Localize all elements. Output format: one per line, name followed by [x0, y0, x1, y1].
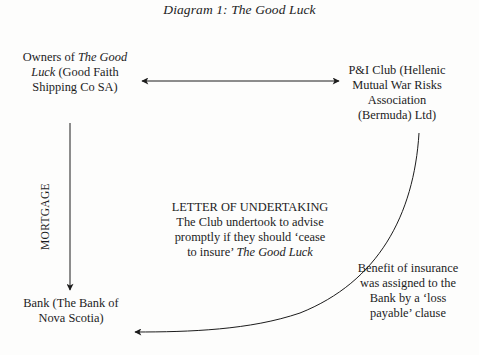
benefit-of-insurance-note: Benefit of insurance was assigned to the…: [343, 261, 473, 321]
letter-line3-prefix: to insure’: [187, 245, 236, 259]
pi-club-line2: Mutual War Risks: [352, 78, 442, 92]
diagram-page: Diagram 1: The Good Luck Owners of The G…: [0, 0, 479, 355]
owners-line3: Shipping Co SA): [32, 80, 117, 94]
pi-club-line4: (Bermuda) Ltd): [358, 108, 436, 122]
pi-club-node: P&I Club (Hellenic Mutual War Risks Asso…: [336, 63, 458, 123]
benefit-line2: was assigned to the: [360, 276, 456, 290]
owners-node: Owners of The Good Luck (Good Faith Ship…: [14, 50, 136, 95]
benefit-line1: Benefit of insurance: [358, 261, 458, 275]
pi-club-line1: P&I Club (Hellenic: [348, 63, 445, 77]
owners-line1-prefix: Owners of: [23, 50, 78, 64]
mortgage-label: MORTGAGE: [39, 183, 51, 250]
letter-heading: LETTER OF UNDERTAKING: [172, 200, 329, 214]
owners-line2-italic: Luck: [31, 65, 55, 79]
bank-line1: Bank (The Bank of: [23, 296, 118, 310]
benefit-line3: Bank by a ‘loss: [370, 291, 447, 305]
letter-line2: promptly if they should ‘cease: [175, 230, 326, 244]
diagram-title: Diagram 1: The Good Luck: [0, 2, 479, 18]
bank-node: Bank (The Bank of Nova Scotia): [15, 296, 127, 326]
pi-club-line3: Association: [368, 93, 427, 107]
bank-line2: Nova Scotia): [38, 311, 103, 325]
owners-line1-italic: The Good: [78, 50, 127, 64]
letter-line3-italic: The Good Luck: [236, 245, 312, 259]
letter-line1: The Club undertook to advise: [176, 215, 323, 229]
benefit-line4: payable’ clause: [370, 306, 446, 320]
letter-of-undertaking-note: LETTER OF UNDERTAKING The Club undertook…: [160, 200, 340, 260]
owners-line2-suffix: (Good Faith: [55, 65, 118, 79]
